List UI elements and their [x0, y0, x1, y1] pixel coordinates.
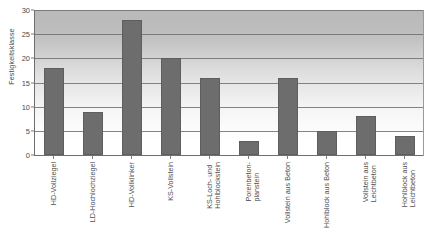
y-axis-tick-mark: [31, 58, 34, 59]
x-axis-tick-mark: [170, 156, 171, 159]
x-axis-tick-mark: [287, 156, 288, 159]
x-axis-tick-mark: [131, 156, 132, 159]
bar-chart: Festigkeitsklasse 051015202530 HD-Vollzi…: [0, 0, 433, 238]
x-axis-tick-mark: [209, 156, 210, 159]
x-axis-tick-mark: [248, 156, 249, 159]
x-axis-tick-label: Vollstein aus Leichtbeton: [362, 162, 379, 202]
y-axis-tick-mark: [31, 34, 34, 35]
x-axis-tick-label: HD-Vollklinker: [128, 162, 136, 207]
x-axis-tick-mark: [404, 156, 405, 159]
x-axis-tick-labels: HD-VollziegelLD-HochlochziegelHD-Vollkli…: [0, 0, 433, 238]
y-axis-tick-mark: [31, 106, 34, 107]
x-axis-tick-label: Hohlblock aus Leichtbeton: [401, 162, 418, 207]
y-axis-tick-mark: [31, 155, 34, 156]
y-axis-tick-mark: [31, 130, 34, 131]
x-axis-tick-label: KS-Loch- und Hohlblockstein: [206, 162, 223, 209]
x-axis-tick-mark: [326, 156, 327, 159]
x-axis-tick-label: Vollstein aus Beton: [284, 162, 292, 223]
x-axis-tick-mark: [365, 156, 366, 159]
y-axis-tick-mark: [31, 82, 34, 83]
y-axis-tick-mark: [31, 10, 34, 11]
x-axis-tick-label: Hohlblock aus Beton: [323, 162, 331, 228]
x-axis-tick-label: KS-Vollstein: [167, 162, 175, 201]
x-axis-tick-label: Porenbeton- planstein: [245, 162, 262, 202]
x-axis-tick-label: LD-Hochlochziegel: [89, 162, 97, 222]
x-axis-tick-mark: [53, 156, 54, 159]
x-axis-tick-label: HD-Vollziegel: [50, 162, 58, 205]
x-axis-tick-mark: [92, 156, 93, 159]
